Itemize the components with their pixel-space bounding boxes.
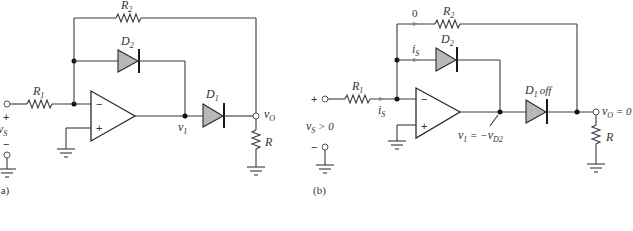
source-minus-sign: − [3,138,9,150]
vs-label: vS [0,122,7,138]
vo-equation-label: vO = 0 [602,104,632,120]
d2-label: D2 [440,32,454,48]
ground-icon [57,149,75,157]
resistor-r1 [27,100,52,108]
resistor-r1 [345,95,370,103]
source-plus-sign: + [3,111,9,123]
precision-rectifier-diagram: R1 + vS − (a) R2 D2 − + [0,0,633,231]
diode-d1 [203,104,223,127]
r1-label: R1 [351,79,363,95]
input-terminal-top [4,101,10,107]
v1-node-dot [498,110,503,115]
is-label-r1: iS [378,103,385,119]
current-arrow-r1 [379,97,385,101]
input-terminal-bottom [322,144,328,150]
diode-d2 [436,48,456,71]
ground-icon [0,169,16,177]
current-arrow-r2 [413,22,419,26]
ground-icon [247,167,265,175]
resistor-r2 [116,14,141,22]
panel-a: R1 + vS − (a) R2 D2 − + [0,0,275,197]
diode-d2 [118,50,138,72]
ground-icon [316,165,334,173]
current-arrow-d2 [413,58,419,62]
vo-terminal [253,113,259,119]
v1-pointer-line [490,115,498,126]
resistor-r2 [435,20,460,28]
resistor-r-load [252,130,260,149]
vo-label: vO [264,107,275,123]
source-plus-sign: + [311,93,317,105]
v1-equation-label: v1 = −vD2 [458,128,503,144]
is-label-d2: iS [412,42,419,58]
d1-label: D1 [205,87,219,103]
opamp-plus-sign: + [96,122,102,134]
vo-terminal [593,109,599,115]
ground-icon [388,141,406,149]
resistor-r-load [592,125,600,144]
opamp-minus-sign: − [96,98,102,110]
r2-label: R2 [442,4,454,20]
v1-node-dot [183,114,188,119]
d1-label: D1off [524,83,553,99]
ground-icon [587,164,605,172]
source-minus-sign: − [311,141,317,153]
r-load-label: R [264,135,273,149]
r2-current-label: 0 [412,7,418,19]
r2-label: R2 [120,0,132,14]
diode-d1 [526,100,546,123]
opamp-plus-sign: + [421,120,427,132]
d2-label: D2 [120,34,134,50]
caption-a: (a) [0,184,10,197]
r-load-label: R [605,130,614,144]
input-terminal-top [322,96,328,102]
opamp-minus-sign: − [421,93,427,105]
input-terminal-bottom [4,152,10,158]
caption-b: (b) [313,184,326,197]
vo-node-dot [575,110,580,115]
v1-label: v1 [178,120,187,136]
panel-b: + R1 iS vS > 0 − (b) 0 R2 iS [306,4,632,197]
r1-label: R1 [32,84,44,100]
vs-condition-label: vS > 0 [306,119,334,135]
